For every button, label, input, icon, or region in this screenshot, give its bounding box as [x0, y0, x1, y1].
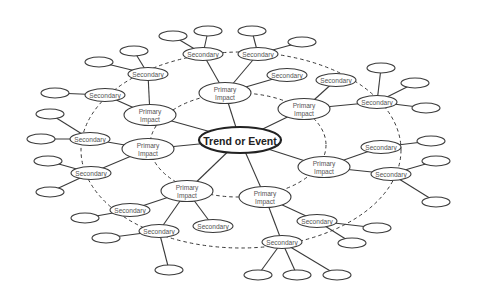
secondary-node: Secondary: [361, 141, 401, 154]
tertiary-node-empty: [422, 156, 450, 166]
primary-impact-node: PrimaryImpact: [298, 157, 350, 178]
secondary-label: Secondary: [242, 51, 274, 59]
primary-label-line2: Impact: [255, 198, 275, 206]
secondary-label: Secondary: [266, 239, 298, 247]
tertiary-node-empty: [288, 37, 316, 47]
secondary-label: Secondary: [74, 136, 106, 144]
tertiary-node-empty: [244, 270, 272, 280]
secondary-label: Secondary: [361, 99, 393, 107]
tertiary-node-empty: [367, 63, 395, 73]
tertiary-node-empty: [36, 187, 64, 197]
tertiary-node-empty: [159, 31, 187, 41]
tertiary-node-empty: [155, 265, 183, 275]
secondary-node: Secondary: [267, 69, 307, 82]
secondary-node: Secondary: [128, 68, 168, 81]
secondary-label: Secondary: [271, 72, 303, 80]
secondary-label: Secondary: [375, 171, 407, 179]
tertiary-node-empty: [422, 197, 450, 207]
tertiary-node-empty: [34, 156, 62, 166]
primary-label-line2: Impact: [294, 110, 314, 118]
secondary-node: Secondary: [70, 133, 110, 146]
tertiary-node-empty: [36, 109, 64, 119]
secondary-label: Secondary: [320, 77, 352, 85]
primary-label-line1: Primary: [139, 108, 162, 116]
primary-impact-node: PrimaryImpact: [239, 187, 291, 208]
primary-label-line1: Primary: [293, 102, 316, 110]
secondary-label: Secondary: [187, 51, 219, 59]
secondary-node: Secondary: [316, 74, 356, 87]
tertiary-node-empty: [412, 103, 440, 113]
tertiary-node-empty: [283, 270, 311, 280]
secondary-label: Secondary: [365, 144, 397, 152]
secondary-node: Secondary: [371, 168, 411, 181]
center-label: Trend or Event: [203, 135, 277, 147]
tertiary-node-empty: [323, 270, 351, 280]
tertiary-node-empty: [238, 26, 266, 36]
tertiary-node-empty: [27, 134, 55, 144]
primary-label-line2: Impact: [140, 116, 160, 124]
primary-impact-node: PrimaryImpact: [199, 83, 251, 104]
primary-label-line1: Primary: [176, 184, 199, 192]
primary-impact-node: PrimaryImpact: [124, 105, 176, 126]
primary-impact-node: PrimaryImpact: [278, 99, 330, 120]
secondary-node: Secondary: [85, 89, 125, 102]
primary-label-line1: Primary: [254, 190, 277, 198]
primary-impact-node: PrimaryImpact: [122, 139, 174, 160]
secondary-node: Secondary: [262, 236, 302, 249]
tertiary-node-empty: [92, 233, 120, 243]
secondary-node: Secondary: [139, 225, 179, 238]
tertiary-node-empty: [363, 223, 391, 233]
impact-wheel-diagram: SecondarySecondarySecondarySecondarySeco…: [0, 0, 477, 302]
secondary-label: Secondary: [301, 218, 333, 226]
secondary-node: Secondary: [183, 48, 223, 61]
primary-label-line2: Impact: [138, 150, 158, 158]
secondary-node: Secondary: [193, 220, 233, 233]
tertiary-node-empty: [401, 78, 429, 88]
primary-label-line1: Primary: [137, 142, 160, 150]
primary-label-line1: Primary: [313, 160, 336, 168]
primary-impact-node: PrimaryImpact: [161, 181, 213, 202]
secondary-label: Secondary: [89, 92, 121, 100]
tertiary-node-empty: [194, 26, 222, 36]
secondary-node: Secondary: [297, 215, 337, 228]
tertiary-node-empty: [338, 238, 366, 248]
tertiary-node-empty: [120, 46, 148, 56]
primary-label-line2: Impact: [215, 94, 235, 102]
secondary-label: Secondary: [75, 170, 107, 178]
secondary-label: Secondary: [143, 228, 175, 236]
secondary-node: Secondary: [238, 48, 278, 61]
tertiary-node-empty: [85, 57, 113, 67]
secondary-node: Secondary: [110, 204, 150, 217]
tertiary-node-empty: [71, 213, 99, 223]
primary-label-line2: Impact: [177, 192, 197, 200]
tertiary-node-empty: [41, 88, 69, 98]
secondary-label: Secondary: [197, 223, 229, 231]
secondary-node: Secondary: [357, 96, 397, 109]
primary-label-line1: Primary: [214, 86, 237, 94]
center-node-trend-or-event: Trend or Event: [199, 127, 281, 153]
secondary-label: Secondary: [132, 71, 164, 79]
secondary-label: Secondary: [114, 207, 146, 215]
tertiary-node-empty: [417, 136, 445, 146]
secondary-node: Secondary: [71, 167, 111, 180]
primary-label-line2: Impact: [314, 168, 334, 176]
